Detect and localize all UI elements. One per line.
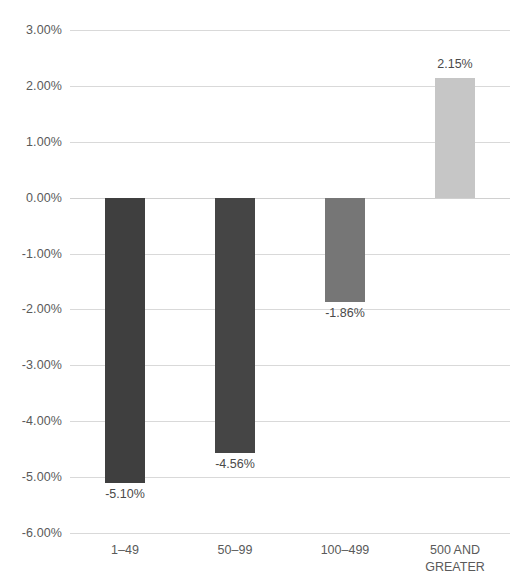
- y-axis-tick-label: 1.00%: [0, 135, 62, 149]
- y-axis-tick-label: -5.00%: [0, 470, 62, 484]
- x-axis-tick-label: 100–499: [290, 542, 400, 559]
- bar-value-label: -4.56%: [190, 457, 280, 471]
- x-axis-tick-label: 50–99: [180, 542, 290, 559]
- x-axis-tick-label: 1–49: [70, 542, 180, 559]
- bar[interactable]: [105, 198, 145, 483]
- y-axis-tick-label: -2.00%: [0, 302, 62, 316]
- bar-value-label: -5.10%: [80, 487, 170, 501]
- y-axis-tick-label: -4.00%: [0, 414, 62, 428]
- bar-value-label: -1.86%: [300, 306, 390, 320]
- bar[interactable]: [215, 198, 255, 453]
- y-axis-tick-label: 3.00%: [0, 23, 62, 37]
- y-axis-tick-label: 2.00%: [0, 79, 62, 93]
- y-axis-tick-label: -1.00%: [0, 247, 62, 261]
- y-axis-tick-label: 0.00%: [0, 191, 62, 205]
- plot-area: -5.10%-4.56%-1.86%2.15%: [70, 0, 510, 586]
- bar[interactable]: [325, 198, 365, 302]
- y-axis-tick-label: -3.00%: [0, 358, 62, 372]
- y-axis-tick-label: -6.00%: [0, 526, 62, 540]
- bar-value-label: 2.15%: [410, 57, 500, 71]
- bar[interactable]: [435, 78, 475, 198]
- bar-chart: 3.00%2.00%1.00%0.00%-1.00%-2.00%-3.00%-4…: [0, 0, 514, 586]
- x-axis-tick-label: 500 AND GREATER: [400, 542, 510, 576]
